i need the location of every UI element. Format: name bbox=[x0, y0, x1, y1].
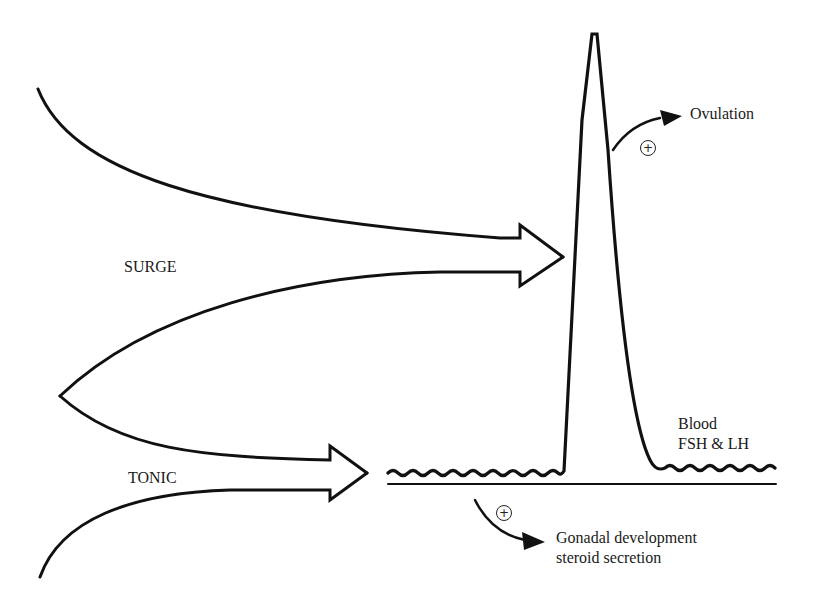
diagram-canvas bbox=[0, 0, 813, 613]
ovulation-label: Ovulation bbox=[690, 105, 754, 123]
fsh-lh-label: FSH & LH bbox=[678, 435, 749, 453]
ovulation-arrowhead bbox=[660, 110, 682, 126]
steroid-secretion-label: steroid secretion bbox=[556, 549, 661, 567]
positive-effect-gonadal-icon: + bbox=[496, 505, 512, 521]
hormone-level-curve bbox=[388, 34, 775, 476]
surge-arrow-lower bbox=[60, 257, 563, 396]
tonic-arrow-lower bbox=[40, 473, 367, 577]
tonic-label: TONIC bbox=[128, 469, 177, 487]
tonic-arrow-upper bbox=[60, 396, 367, 473]
gonadal-arrowhead bbox=[522, 532, 545, 550]
surge-arrow-upper bbox=[38, 89, 563, 257]
gonadal-development-label: Gonadal development bbox=[556, 529, 697, 547]
surge-label: SURGE bbox=[124, 258, 176, 276]
blood-label: Blood bbox=[678, 415, 717, 433]
positive-effect-ovulation-icon: + bbox=[640, 140, 656, 156]
hormone-diagram: + + SURGE TONIC Ovulation Blood FSH & LH… bbox=[0, 0, 813, 613]
